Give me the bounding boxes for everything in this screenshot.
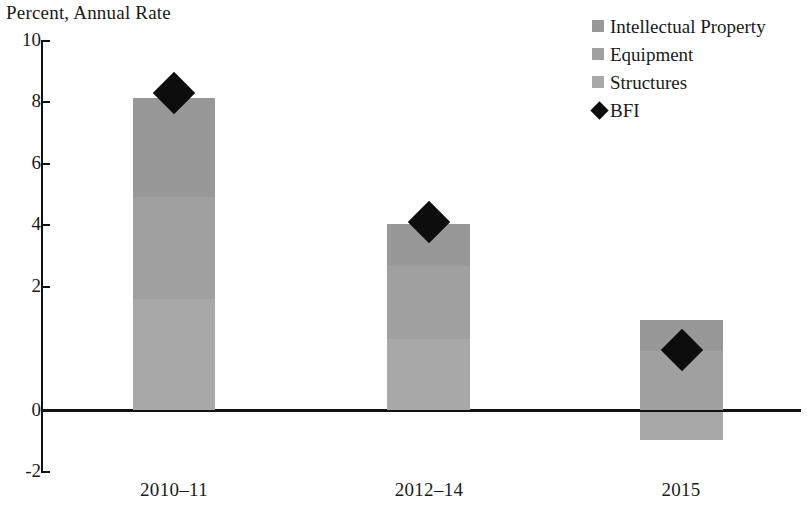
bar-segment-equipment xyxy=(133,197,215,299)
chart-legend: Intellectual Property Equipment Structur… xyxy=(592,12,807,124)
y-tick-label-minus2: -2 xyxy=(7,461,41,480)
x-tick-label-2010-11: 2010–11 xyxy=(140,479,208,501)
legend-diamond-icon xyxy=(590,101,608,119)
legend-item-bfi: BFI xyxy=(592,96,807,124)
y-tick-label-6: 6 xyxy=(7,153,41,172)
y-tick-label-10: 10 xyxy=(7,30,41,49)
bar-segment-structures xyxy=(133,299,215,410)
legend-item-structures: Structures xyxy=(592,68,807,96)
y-tick-label-0: 0 xyxy=(7,400,41,419)
bar-segment-structures-negative xyxy=(640,412,723,440)
y-tick-mark xyxy=(41,224,50,226)
y-tick-label-4: 4 xyxy=(7,214,41,233)
y-tick-mark xyxy=(41,471,50,473)
y-tick-label-2: 2 xyxy=(7,276,41,295)
y-tick-label-8: 8 xyxy=(7,91,41,110)
legend-label-intellectual-property: Intellectual Property xyxy=(610,17,766,36)
bar-segment-equipment xyxy=(387,266,470,339)
legend-label-equipment: Equipment xyxy=(610,45,693,64)
x-tick-label-2012-14: 2012–14 xyxy=(395,479,464,501)
y-axis-line xyxy=(41,40,43,472)
x-tick-label-2015: 2015 xyxy=(661,479,700,501)
legend-square-icon xyxy=(592,76,604,88)
bar-group-2010-11 xyxy=(133,0,215,515)
legend-item-intellectual-property: Intellectual Property xyxy=(592,12,807,40)
bar-group-2012-14 xyxy=(387,0,470,515)
legend-item-equipment: Equipment xyxy=(592,40,807,68)
y-tick-mark xyxy=(41,286,50,288)
y-tick-mark xyxy=(41,163,50,165)
legend-label-bfi: BFI xyxy=(610,101,640,120)
legend-square-icon xyxy=(592,48,604,60)
y-tick-mark xyxy=(41,40,50,42)
y-tick-mark xyxy=(41,101,50,103)
bar-segment-structures xyxy=(387,339,470,410)
legend-label-structures: Structures xyxy=(610,73,687,92)
legend-square-icon xyxy=(592,20,604,32)
chart-figure: Percent, Annual Rate 10 8 6 2 4 0 -2 xyxy=(0,0,807,515)
